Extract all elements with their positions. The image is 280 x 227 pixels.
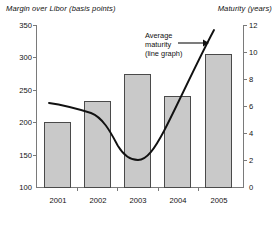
annotation-line-1: Average — [145, 31, 172, 40]
chart-container: Margin over Libor (basis points) Maturit… — [0, 0, 280, 227]
annotation-line-3: (line graph) — [145, 49, 182, 58]
callout-arrow — [178, 40, 209, 47]
annotation-line-2: maturity — [145, 40, 171, 49]
maturity-line-overlay — [0, 0, 280, 227]
maturity-line-path — [49, 30, 214, 160]
